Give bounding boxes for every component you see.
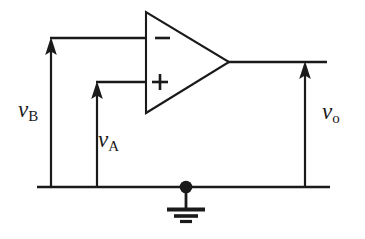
opamp-circuit-diagram: vB vA vo [0,0,365,239]
va-label: vA [98,128,119,154]
vo-label: vo [322,100,340,126]
va-label-variable: v [98,127,108,152]
vo-label-subscript: o [332,110,340,126]
vb-label-subscript: B [28,108,38,124]
vb-label: vB [18,98,38,124]
vb-label-variable: v [18,97,28,122]
vo-label-variable: v [322,99,332,124]
vo-arrow [299,61,311,186]
vb-arrow [45,37,57,186]
va-label-subscript: A [108,138,119,154]
opamp-triangle [146,12,229,113]
circuit-schematic-canvas [0,0,365,239]
